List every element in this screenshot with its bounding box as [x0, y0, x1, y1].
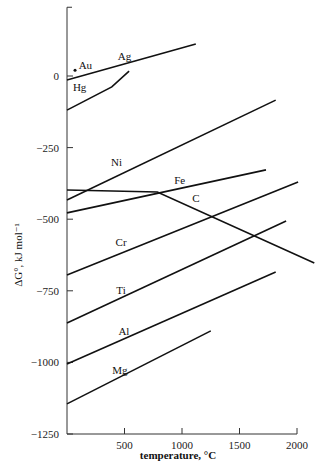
point-au — [74, 69, 77, 72]
series-lines — [67, 44, 314, 404]
series-label-ni: Ni — [111, 156, 122, 168]
oxide-free-energy-chart: 0−250−500−750−1000−1250500100015002000 A… — [0, 0, 325, 468]
x-tick-label: 500 — [116, 439, 133, 451]
x-tick-label: 2000 — [286, 439, 309, 451]
series-label-ti: Ti — [116, 284, 125, 296]
series-line-ti — [67, 221, 286, 323]
series-line-cr — [67, 182, 298, 275]
series-label-al: Al — [118, 325, 129, 337]
x-tick-label: 1500 — [229, 439, 252, 451]
axis-lines — [67, 7, 297, 434]
series-label-cr: Cr — [116, 236, 127, 248]
series-label-hg: Hg — [73, 81, 87, 93]
series-line-c — [67, 190, 314, 263]
series-label-fe: Fe — [174, 174, 185, 186]
point-label-au: Au — [79, 59, 93, 71]
series-label-ag: Ag — [118, 50, 132, 62]
series-label-mg: Mg — [112, 364, 128, 376]
series-label-c: C — [192, 192, 199, 204]
series-line-ni — [67, 100, 276, 200]
y-tick-label: −1250 — [31, 428, 60, 440]
y-tick-label: 0 — [54, 70, 60, 82]
series-labels: AgHgNiCFeCrTiAlMgAu — [73, 50, 200, 376]
y-tick-label: −1000 — [31, 356, 60, 368]
y-tick-label: −750 — [36, 285, 59, 297]
x-axis-title: temperature, °C — [140, 449, 216, 461]
y-axis-title: ΔG°, kJ mol⁻¹ — [12, 223, 24, 287]
y-tick-label: −500 — [36, 213, 59, 225]
y-tick-label: −250 — [36, 142, 59, 154]
series-line-mg — [67, 331, 211, 404]
